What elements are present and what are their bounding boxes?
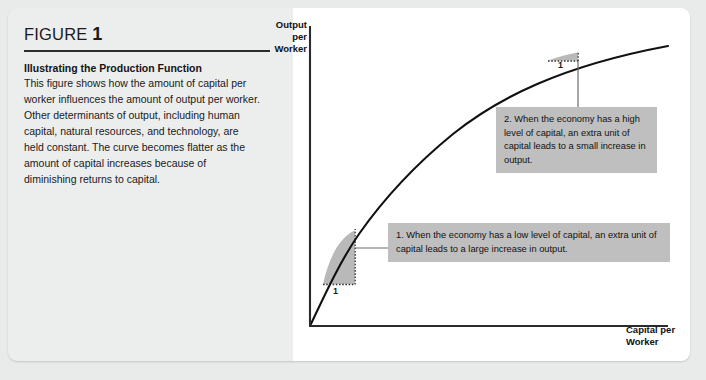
figure-card: FIGURE 1 Illustrating the Production Fun…: [8, 8, 690, 361]
plot-panel: Output per Worker Capital per Worker 1 1…: [293, 8, 690, 361]
x-axis-label: Capital per Worker: [626, 324, 675, 348]
production-function-curve: [310, 46, 668, 326]
figure-caption-column: FIGURE 1 Illustrating the Production Fun…: [8, 8, 285, 361]
low-capital-shaded-region: [323, 231, 355, 285]
figure-title: FIGURE 1: [24, 24, 267, 50]
high-capital-unit-label: 1: [558, 60, 563, 70]
low-capital-unit-label: 1: [333, 286, 338, 296]
y-axis-label: Output per Worker: [274, 19, 307, 55]
plot-area: Output per Worker Capital per Worker 1 1…: [293, 8, 690, 361]
production-function-chart: [293, 8, 690, 361]
caption-body: This figure shows how the amount of capi…: [24, 76, 260, 188]
figure-label: FIGURE: [24, 25, 88, 43]
callout-low-capital: 1. When the economy has a low level of c…: [388, 223, 670, 262]
caption-heading: Illustrating the Production Function: [24, 61, 267, 75]
title-divider: [24, 50, 270, 52]
callout-high-capital: 2. When the economy has a high level of …: [496, 107, 657, 173]
figure-number: 1: [92, 24, 102, 44]
